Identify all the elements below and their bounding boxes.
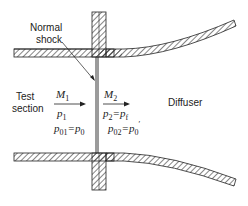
diffuser-label: Diffuser — [168, 97, 203, 108]
shock-label-line1: Normal — [30, 22, 62, 33]
upstream-flow-arrow — [54, 102, 86, 107]
svg-text:p1: p1 — [56, 107, 67, 122]
downstream-mach: M2 — [103, 88, 117, 103]
normal-shock-line — [96, 57, 98, 153]
svg-text:M1: M1 — [55, 88, 69, 103]
upstream-pressure: p1 — [56, 107, 67, 122]
shock-leader-line — [62, 42, 94, 80]
downstream-pressure: p2=pf — [102, 107, 128, 122]
lower-diffuser-wall — [106, 153, 236, 186]
normal-shock-diagram: Normal shock Test section Diffuser M1 p1… — [0, 0, 248, 206]
upstream-total-pressure: p01=p0 — [53, 122, 84, 137]
upper-flange — [92, 12, 106, 57]
downstream-total-pressure: p02=p0′ — [107, 120, 140, 137]
upper-diffuser-wall — [106, 20, 236, 57]
svg-text:p02=p0′: p02=p0′ — [107, 120, 140, 137]
svg-text:M2: M2 — [103, 88, 117, 103]
test-section-label-line2: section — [12, 103, 44, 114]
svg-text:p01=p0: p01=p0 — [53, 122, 84, 137]
shock-label-line2: shock — [36, 34, 63, 45]
upstream-mach: M1 — [55, 88, 69, 103]
svg-text:p2=pf: p2=pf — [102, 107, 128, 122]
lower-flange — [92, 153, 106, 190]
test-section-label-line1: Test — [16, 91, 35, 102]
